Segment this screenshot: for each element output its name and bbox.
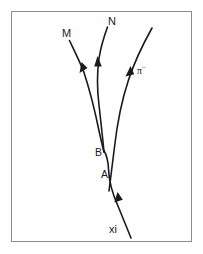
pion-track [109,28,152,191]
track-label-xi: xi [109,223,117,235]
track-label-n: N [108,15,116,27]
track-label-pion: π− [137,64,146,77]
xi-track-arrowhead [114,192,123,203]
pion-charge-glyph: − [142,64,146,72]
n-track-arrowhead [94,56,102,67]
decay-diagram-canvas: M N π− B A xi [0,0,203,254]
vertex-label-a: A [101,168,108,180]
decay-diagram-figure: M N π− B A xi [0,0,203,254]
vertex-label-b: B [95,146,102,158]
track-label-m: M [62,27,71,39]
